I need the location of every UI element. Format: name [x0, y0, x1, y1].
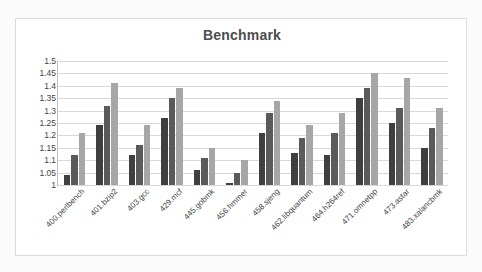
bar-group	[58, 61, 91, 185]
x-axis-category-label: 401.bzip2	[88, 187, 119, 218]
bar	[201, 158, 208, 185]
chart-title: Benchmark	[16, 27, 468, 43]
bar	[429, 128, 436, 185]
bar-group	[383, 61, 416, 185]
bar-group	[286, 61, 319, 185]
bar	[136, 145, 143, 185]
bar	[324, 155, 331, 185]
y-axis-tick-label: 1.45	[39, 69, 56, 77]
bar	[161, 118, 168, 185]
y-axis-tick-label: 1.15	[39, 144, 56, 152]
y-axis-tick-label: 1.35	[39, 94, 56, 102]
bar-group	[156, 61, 189, 185]
bar	[331, 133, 338, 185]
bar-group	[416, 61, 449, 185]
y-axis-tick-label: 1	[51, 181, 56, 189]
y-axis-tick-label: 1.25	[39, 119, 56, 127]
x-axis-category-label: 403.gcc	[125, 187, 151, 213]
bar-group	[123, 61, 156, 185]
bar	[371, 73, 378, 185]
bar	[266, 113, 273, 185]
bar	[111, 83, 118, 185]
bar	[104, 106, 111, 185]
x-axis-category-label: 429.mcf	[158, 187, 184, 213]
bar	[209, 148, 216, 185]
x-axis-category-label: 458.sjeng	[251, 187, 282, 218]
y-axis-tick-label: 1.2	[44, 131, 56, 139]
bar	[169, 98, 176, 185]
bar-group	[318, 61, 351, 185]
bar-group	[253, 61, 286, 185]
bar	[64, 175, 71, 185]
y-axis-tick-label: 1.5	[44, 57, 56, 65]
bar	[226, 183, 233, 185]
bar	[356, 98, 363, 185]
gridline	[58, 185, 448, 186]
bar	[234, 173, 241, 185]
bar	[71, 155, 78, 185]
bar	[79, 133, 86, 185]
bar	[364, 88, 371, 185]
chart-frame: Benchmark 1.51.451.41.351.31.251.21.151.…	[15, 18, 467, 256]
bar	[144, 125, 151, 185]
chart-page: Benchmark 1.51.451.41.351.31.251.21.151.…	[0, 0, 482, 272]
bar	[436, 108, 443, 185]
bar-group	[221, 61, 254, 185]
bar	[421, 148, 428, 185]
y-axis-tick-label: 1.05	[39, 169, 56, 177]
bar	[259, 133, 266, 185]
plot-area	[58, 61, 448, 185]
bar	[389, 123, 396, 185]
bar	[396, 108, 403, 185]
bar-group	[188, 61, 221, 185]
bar	[241, 160, 248, 185]
x-axis-category-labels: 400.perlbench401.bzip2403.gcc429.mcf445.…	[58, 187, 448, 267]
bar	[299, 138, 306, 185]
bar	[194, 170, 201, 185]
bar	[339, 113, 346, 185]
bar	[129, 155, 136, 185]
bar-group	[91, 61, 124, 185]
bar-groups	[58, 61, 448, 185]
x-axis-category-label: 445.gobmk	[182, 187, 216, 221]
bar	[404, 78, 411, 185]
y-axis: 1.51.451.41.351.31.251.21.151.11.051	[16, 61, 56, 185]
bar	[96, 125, 103, 185]
x-axis-category-label: 400.perlbench	[44, 187, 86, 229]
y-axis-tick-label: 1.1	[44, 156, 56, 164]
bar	[176, 88, 183, 185]
bar	[274, 101, 281, 185]
x-axis-category-label: 456.hmmer	[214, 187, 249, 222]
x-axis-category-label: 473.astar	[382, 187, 412, 217]
bar	[306, 125, 313, 185]
bar	[291, 153, 298, 185]
y-axis-tick-label: 1.4	[44, 82, 56, 90]
y-axis-tick-label: 1.3	[44, 107, 56, 115]
bar-group	[351, 61, 384, 185]
